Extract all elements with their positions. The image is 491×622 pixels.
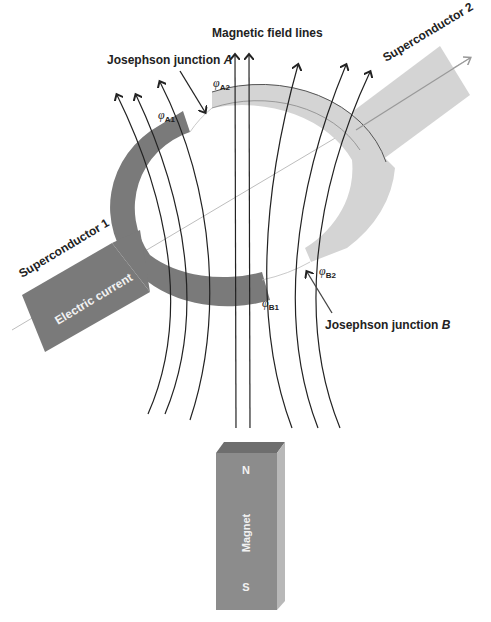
field-lines-label: Magnetic field lines: [212, 26, 323, 40]
josephson-squid-diagram: Magnetic field lines Josephson junction …: [0, 0, 491, 622]
field-line: [267, 65, 298, 428]
field-line: [235, 55, 236, 428]
junction-b-label: Josephson junction B: [325, 318, 451, 332]
magnet-north-label: N: [242, 464, 250, 476]
phase-b1: φB1: [262, 296, 279, 312]
magnet: N Magnet S: [216, 442, 285, 610]
superconductor-2-label: Superconductor 2: [380, 0, 476, 65]
magnet-side: [277, 442, 285, 610]
junction-a-label: Josephson junction A: [107, 53, 232, 67]
field-line: [249, 55, 250, 428]
magnet-south-label: S: [242, 581, 249, 593]
phase-a2: φA2: [213, 76, 230, 92]
phase-b2: φB2: [319, 264, 336, 280]
magnet-top: [216, 442, 285, 453]
magnet-label: Magnet: [240, 513, 252, 552]
junction-a-pointer: [180, 71, 205, 112]
